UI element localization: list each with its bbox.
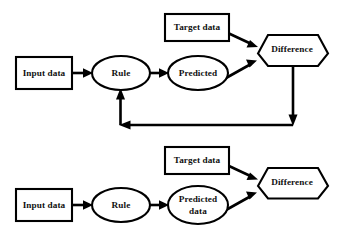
edge-predicted-data-to-difference-2	[226, 192, 257, 211]
node-difference-2: Difference	[258, 168, 328, 199]
node-rule-2-label: Rule	[112, 200, 131, 210]
node-predicted-data-label-line1: Predicted	[179, 194, 218, 204]
node-target-data-label: Target data	[174, 22, 221, 32]
edge-rule-to-predicted	[150, 68, 169, 78]
node-difference-2-label: Difference	[271, 177, 313, 187]
edge-input-data-to-rule	[72, 68, 93, 78]
node-target-data: Target data	[165, 14, 229, 41]
node-predicted-label: Predicted	[179, 68, 218, 78]
node-input-data-label: Input data	[23, 68, 66, 78]
node-predicted-data: Predicted data	[168, 186, 228, 224]
edge-input-data-2-to-rule-2	[72, 200, 93, 210]
flowchart-canvas: Input data Rule Predicted Target data Di…	[0, 0, 342, 234]
edge-rule-2-to-predicted-data	[150, 200, 169, 210]
edge-target-data-to-difference	[229, 34, 258, 48]
node-difference: Difference	[258, 35, 328, 66]
node-predicted: Predicted	[168, 56, 228, 90]
node-predicted-data-label-line2: data	[189, 206, 207, 216]
node-difference-label: Difference	[271, 44, 313, 54]
edge-target-data-2-to-difference-2	[229, 166, 258, 180]
node-input-data-2-label: Input data	[23, 200, 66, 210]
node-rule: Rule	[92, 56, 150, 90]
node-target-data-2: Target data	[165, 147, 229, 174]
top-diagram: Input data Rule Predicted Target data Di…	[16, 14, 328, 130]
edge-predicted-to-difference	[226, 60, 257, 79]
node-rule-label: Rule	[112, 68, 131, 78]
node-input-data-2: Input data	[16, 189, 72, 221]
node-target-data-2-label: Target data	[174, 155, 221, 165]
node-input-data: Input data	[16, 57, 72, 89]
bottom-diagram: Input data Rule Predicted data Target da…	[16, 147, 328, 224]
node-rule-2: Rule	[92, 188, 150, 222]
flowchart-diagram: Input data Rule Predicted Target data Di…	[0, 0, 342, 234]
